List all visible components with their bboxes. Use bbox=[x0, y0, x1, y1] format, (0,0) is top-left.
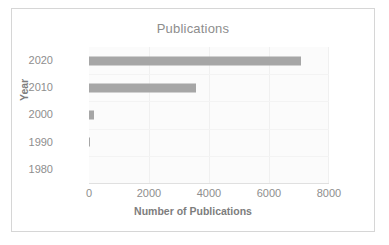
bar-1990[interactable] bbox=[89, 138, 90, 147]
y-tick-label-1980: 1980 bbox=[7, 156, 53, 183]
y-tick-label-2020: 2020 bbox=[7, 47, 53, 74]
x-axis-title: Number of Publications bbox=[12, 205, 374, 217]
x-tick-label-2000: 2000 bbox=[119, 187, 179, 199]
x-tick-label-8000: 8000 bbox=[299, 187, 359, 199]
x-tick-label-4000: 4000 bbox=[179, 187, 239, 199]
bar-2000[interactable] bbox=[89, 110, 94, 119]
y-tick-label-1990: 1990 bbox=[7, 129, 53, 156]
x-axis-line bbox=[89, 183, 329, 184]
chart-frame[interactable]: Publications Year 2020 2010 2000 19 bbox=[11, 8, 375, 232]
chart-title: Publications bbox=[12, 21, 374, 36]
bar-row bbox=[89, 74, 329, 101]
bar-row bbox=[89, 129, 329, 156]
x-tick-label-6000: 6000 bbox=[239, 187, 299, 199]
bar-row bbox=[89, 156, 329, 183]
y-tick-label-2000: 2000 bbox=[7, 101, 53, 128]
y-tick-label-2010: 2010 bbox=[7, 74, 53, 101]
bar-row bbox=[89, 101, 329, 128]
bar-2020[interactable] bbox=[89, 56, 301, 65]
bar-2010[interactable] bbox=[89, 83, 196, 92]
bar-row bbox=[89, 47, 329, 74]
plot-area bbox=[89, 47, 329, 183]
x-tick-label-0: 0 bbox=[59, 187, 119, 199]
